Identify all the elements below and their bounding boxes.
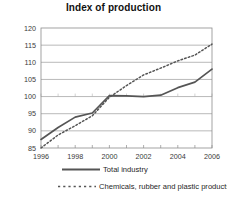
- x-tick-label: 1996: [33, 152, 49, 161]
- series-lines: [41, 44, 212, 148]
- y-tick-label: 90: [28, 126, 36, 135]
- chart-legend: Total industryChemicals, rubber and plas…: [58, 165, 227, 191]
- x-tick-label: 2004: [170, 152, 186, 161]
- x-tick-label: 2000: [101, 152, 117, 161]
- x-tick-label: 2002: [136, 152, 152, 161]
- y-tick-label: 110: [25, 58, 36, 67]
- legend-label-1: Total industry: [103, 165, 148, 174]
- chart-plot: 859095100105110115120 199619982000200220…: [0, 0, 227, 199]
- x-axis-tick-marks: [41, 94, 212, 148]
- legend-label-2: Chemicals, rubber and plastic products: [99, 182, 227, 191]
- y-tick-label: 100: [24, 92, 36, 101]
- y-tick-label: 95: [28, 109, 36, 118]
- x-tick-label: 1998: [67, 152, 83, 161]
- y-tick-label: 115: [25, 41, 36, 50]
- y-tick-label: 120: [24, 24, 36, 33]
- y-axis-tick-labels: 859095100105110115120: [24, 24, 36, 153]
- x-tick-label: 2006: [204, 152, 220, 161]
- chart-container: Index of production 85909510010511011512…: [0, 0, 227, 199]
- y-tick-label: 105: [24, 75, 36, 84]
- x-axis-tick-labels: 199619982000200220042006: [33, 152, 220, 161]
